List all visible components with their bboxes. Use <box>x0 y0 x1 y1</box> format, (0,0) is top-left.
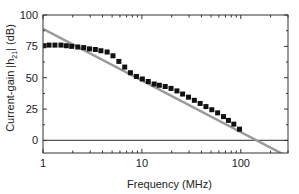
data-point <box>87 46 92 51</box>
data-point <box>203 104 208 109</box>
y-tick-label: 25 <box>26 103 38 115</box>
data-point <box>64 43 69 48</box>
x-tick-label: 100 <box>232 157 250 169</box>
x-tick-label: 1 <box>40 157 46 169</box>
data-point <box>69 44 74 49</box>
data-point <box>237 127 242 132</box>
data-point <box>140 76 145 81</box>
data-point <box>75 44 80 49</box>
data-point <box>221 114 226 119</box>
x-tick-label: 10 <box>136 157 148 169</box>
data-point <box>47 43 52 48</box>
data-point <box>105 50 110 55</box>
data-point <box>231 122 236 127</box>
data-point <box>157 83 162 88</box>
y-tick-label: 0 <box>32 134 38 146</box>
plot-area <box>41 29 288 157</box>
data-point <box>93 47 98 52</box>
chart: 1101000255075100 Frequency (MHz) Current… <box>0 0 299 194</box>
data-point <box>152 82 157 87</box>
y-axis-title-post: | (dB) <box>4 24 16 51</box>
y-axis-title: Current-gain |h21| (dB) <box>4 24 18 132</box>
data-point <box>209 107 214 112</box>
axes: 1101000255075100 <box>20 9 288 169</box>
data-point <box>128 70 133 75</box>
y-tick-label: 75 <box>26 40 38 52</box>
plot-frame <box>43 15 288 153</box>
data-point <box>163 84 168 89</box>
data-point <box>134 74 139 79</box>
data-point <box>52 43 57 48</box>
data-point <box>226 118 231 123</box>
data-point <box>41 43 46 48</box>
data-point <box>215 110 220 115</box>
data-point <box>192 98 197 103</box>
data-point <box>58 43 63 48</box>
data-point <box>122 65 127 70</box>
y-tick-label: 100 <box>20 9 38 21</box>
data-point <box>186 95 191 100</box>
data-point <box>180 92 185 97</box>
data-point <box>110 53 115 58</box>
data-point <box>116 59 121 64</box>
data-point <box>98 48 103 53</box>
data-point <box>169 86 174 91</box>
data-point <box>146 79 151 84</box>
x-axis-title: Frequency (MHz) <box>127 178 212 190</box>
y-axis-title-sub: 21 <box>11 51 18 59</box>
y-tick-label: 50 <box>26 72 38 84</box>
data-point <box>81 45 86 50</box>
data-point <box>174 88 179 93</box>
y-axis-title-pre: Current-gain |h <box>4 59 16 132</box>
data-point <box>198 101 203 106</box>
